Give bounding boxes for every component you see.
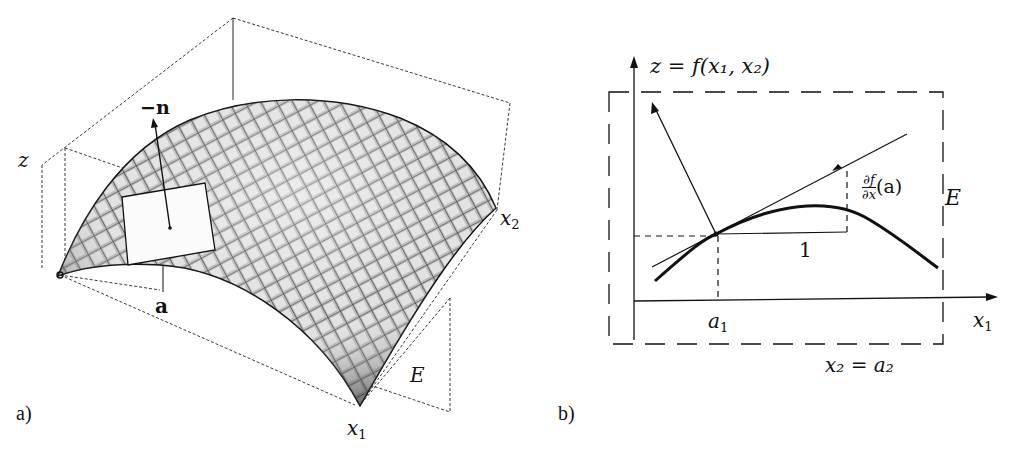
normal-vector-label: −n xyxy=(140,98,170,117)
plane-e-label-a: E xyxy=(410,365,425,385)
point-a-label: a xyxy=(155,296,168,316)
partial-derivative-label: ∂f∂x(a) xyxy=(862,173,902,201)
plane-equation-label: x₂ = a₂ xyxy=(825,355,894,375)
function-label: z = f(x₁, x₂) xyxy=(650,56,770,77)
tangent-plane xyxy=(122,183,215,265)
point-a1-label: a1 xyxy=(708,311,728,334)
axis-x1-label-b: x1 xyxy=(973,310,993,333)
axis-z-label: z xyxy=(18,150,29,170)
axis-x1-label-a: x1 xyxy=(347,418,367,441)
unit-step-label: 1 xyxy=(799,240,812,260)
panel-b-caption: b) xyxy=(558,403,575,423)
axis-x2-label-a: x2 xyxy=(500,208,520,231)
panel-a-caption: a) xyxy=(16,403,32,423)
plane-e-label-b: E xyxy=(945,187,961,209)
